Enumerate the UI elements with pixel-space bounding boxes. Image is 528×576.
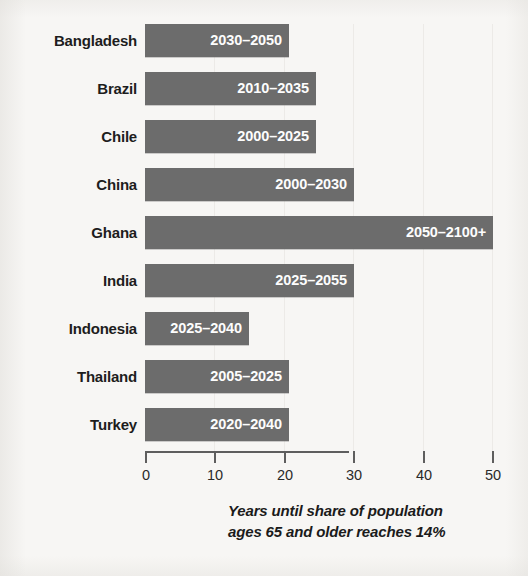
category-label-ghana: Ghana bbox=[91, 216, 137, 249]
bar-bangladesh[interactable]: 2030–2050 bbox=[145, 24, 289, 57]
tick-label-30: 30 bbox=[346, 467, 362, 483]
bar-label-india: 2025–2055 bbox=[275, 264, 347, 297]
axis-baseline bbox=[145, 451, 349, 453]
bar-chart-figure: Bangladesh Brazil Chile China Ghana Indi… bbox=[0, 0, 528, 576]
category-label-brazil: Brazil bbox=[97, 72, 137, 105]
bar-label-chile: 2000–2025 bbox=[237, 120, 309, 153]
value-axis: 0 10 20 30 40 50 bbox=[145, 451, 505, 497]
tick-label-40: 40 bbox=[416, 467, 432, 483]
tick-mark-0 bbox=[145, 451, 147, 463]
category-label-china: China bbox=[96, 168, 137, 201]
plot-area: 2030–2050 2010–2035 2000–2025 2000–2030 … bbox=[145, 24, 493, 451]
tick-mark-20 bbox=[284, 451, 286, 463]
category-label-thailand: Thailand bbox=[77, 360, 137, 393]
tick-label-0: 0 bbox=[142, 467, 150, 483]
bar-label-indonesia: 2025–2040 bbox=[170, 312, 242, 345]
bar-label-ghana: 2050–2100+ bbox=[406, 216, 486, 249]
tick-label-10: 10 bbox=[207, 467, 223, 483]
bar-thailand[interactable]: 2005–2025 bbox=[145, 360, 289, 393]
chart-caption: Years until share of population ages 65 … bbox=[228, 500, 518, 543]
bar-china[interactable]: 2000–2030 bbox=[145, 168, 354, 201]
bar-label-bangladesh: 2030–2050 bbox=[210, 24, 282, 57]
category-label-bangladesh: Bangladesh bbox=[54, 24, 137, 57]
tick-mark-10 bbox=[214, 451, 216, 463]
category-label-indonesia: Indonesia bbox=[69, 312, 137, 345]
tick-label-20: 20 bbox=[277, 467, 293, 483]
bar-ghana[interactable]: 2050–2100+ bbox=[145, 216, 493, 249]
category-label-turkey: Turkey bbox=[90, 408, 137, 441]
bar-indonesia[interactable]: 2025–2040 bbox=[145, 312, 249, 345]
category-label-india: India bbox=[103, 264, 137, 297]
tick-label-50: 50 bbox=[485, 467, 501, 483]
tick-mark-30 bbox=[353, 451, 355, 463]
bar-brazil[interactable]: 2010–2035 bbox=[145, 72, 316, 105]
bar-india[interactable]: 2025–2055 bbox=[145, 264, 354, 297]
tick-mark-50 bbox=[492, 451, 494, 463]
caption-line-2: ages 65 and older reaches 14% bbox=[228, 521, 518, 542]
bar-chile[interactable]: 2000–2025 bbox=[145, 120, 316, 153]
tick-mark-40 bbox=[423, 451, 425, 463]
bar-label-brazil: 2010–2035 bbox=[237, 72, 309, 105]
bar-turkey[interactable]: 2020–2040 bbox=[145, 408, 289, 441]
caption-line-1: Years until share of population bbox=[228, 500, 518, 521]
category-label-chile: Chile bbox=[101, 120, 137, 153]
bar-label-turkey: 2020–2040 bbox=[210, 408, 282, 441]
category-axis-labels: Bangladesh Brazil Chile China Ghana Indi… bbox=[0, 24, 137, 451]
bar-label-china: 2000–2030 bbox=[275, 168, 347, 201]
bar-label-thailand: 2005–2025 bbox=[210, 360, 282, 393]
